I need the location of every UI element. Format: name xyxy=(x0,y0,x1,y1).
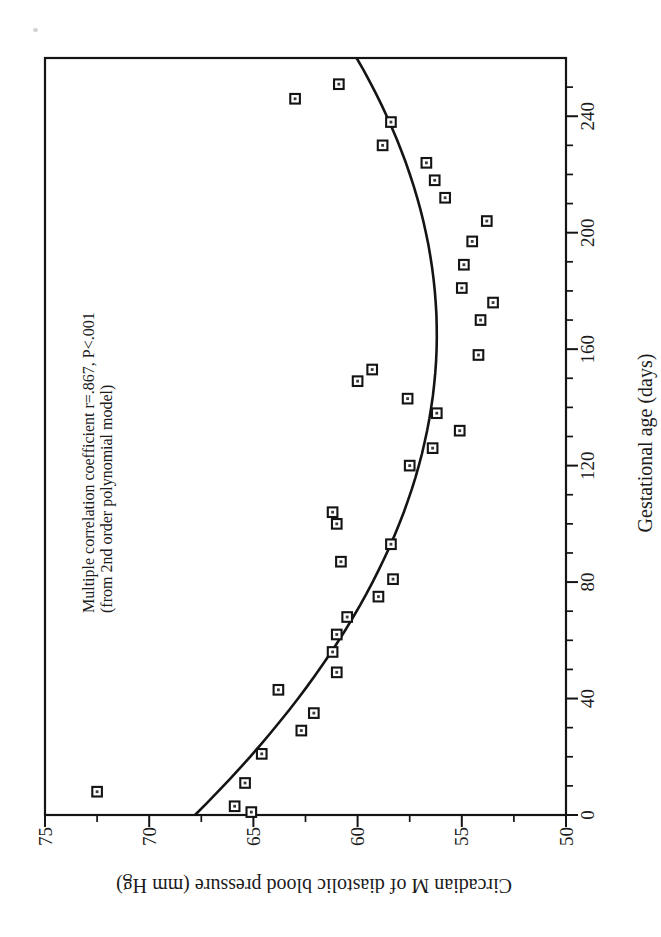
data-point-dot xyxy=(340,560,343,563)
rotated-chart: 04080120160200240757065605550 Multiple c… xyxy=(0,0,661,937)
data-point-dot xyxy=(458,429,461,432)
data-point-dot xyxy=(244,782,247,785)
x-tick-label: 160 xyxy=(577,335,598,364)
data-point-dot xyxy=(335,522,338,525)
data-point-dot xyxy=(460,287,463,290)
y-axis-title: Circadian M of diastolic blood pressure … xyxy=(116,874,512,897)
y-tick-label: 60 xyxy=(347,827,368,846)
chart-canvas: 04080120160200240757065605550 Multiple c… xyxy=(0,0,661,937)
data-point-dot xyxy=(294,97,297,100)
data-point-dot xyxy=(337,83,340,86)
data-point-dot xyxy=(435,412,438,415)
annotation-line-2: (from 2nd order polynomial model) xyxy=(98,385,116,613)
data-point-dot xyxy=(356,380,359,383)
data-point-dot xyxy=(471,240,474,243)
plot-generated-layer: 04080120160200240757065605550 xyxy=(35,58,599,846)
data-point-dot xyxy=(250,811,253,814)
y-tick-label: 55 xyxy=(451,827,472,846)
data-point-dot xyxy=(444,196,447,199)
data-point-dot xyxy=(477,354,480,357)
data-point-dot xyxy=(331,511,334,514)
data-point-dot xyxy=(406,397,409,400)
data-point-dot xyxy=(331,651,334,654)
x-axis-title: Gestational age (days) xyxy=(634,354,657,533)
data-point-dot xyxy=(433,179,436,182)
data-point-dot xyxy=(346,616,349,619)
x-tick-label: 120 xyxy=(577,451,598,480)
data-point-dot xyxy=(300,729,303,732)
figure-page: 04080120160200240757065605550 Multiple c… xyxy=(0,0,661,937)
data-point-dot xyxy=(312,712,315,715)
x-tick-label: 0 xyxy=(577,810,598,820)
data-point-dot xyxy=(408,464,411,467)
data-point-dot xyxy=(485,220,488,223)
plot-frame xyxy=(45,58,566,815)
annotation-line-1: Multiple correlation coefficient r=.867,… xyxy=(80,312,98,613)
data-point-dot xyxy=(371,368,374,371)
data-point-dot xyxy=(335,671,338,674)
data-point-dot xyxy=(260,752,263,755)
data-point-dot xyxy=(277,688,280,691)
x-tick-label: 200 xyxy=(577,218,598,247)
x-tick-label: 40 xyxy=(577,689,598,708)
x-tick-label: 240 xyxy=(577,102,598,131)
data-point-dot xyxy=(431,447,434,450)
data-point-dot xyxy=(390,543,393,546)
x-tick-label: 80 xyxy=(577,573,598,592)
y-tick-label: 65 xyxy=(243,827,264,846)
data-point-dot xyxy=(479,319,482,322)
y-tick-label: 70 xyxy=(139,827,160,846)
y-tick-label: 50 xyxy=(556,827,577,846)
data-point-dot xyxy=(390,121,393,124)
fit-curve xyxy=(195,58,437,815)
data-point-dot xyxy=(381,144,384,147)
data-point-dot xyxy=(233,805,236,808)
data-point-dot xyxy=(377,595,380,598)
y-tick-label: 75 xyxy=(35,827,56,846)
data-point-dot xyxy=(335,633,338,636)
data-point-dot xyxy=(425,161,428,164)
data-point-dot xyxy=(492,301,495,304)
data-point-dot xyxy=(462,263,465,266)
data-point-dot xyxy=(392,578,395,581)
data-point-dot xyxy=(96,790,99,793)
